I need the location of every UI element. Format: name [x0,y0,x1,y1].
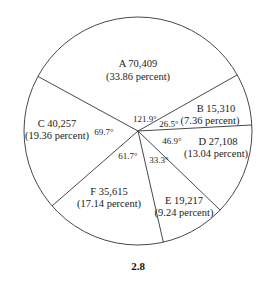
slice-angle-d: 46.9° [162,136,182,146]
slice-percent-d: (13.04 percent) [184,148,249,160]
slice-percent-c: (19.36 percent) [25,130,90,142]
pie-chart: A 70,409(33.86 percent)121.9°B 15,310(7.… [0,0,268,284]
slice-label-c: C 40,257 [38,118,77,129]
slice-percent-e: (9.24 percent) [155,207,214,219]
slice-label-b: B 15,310 [197,103,236,114]
slice-label-f: F 35,615 [90,186,127,197]
slice-label-d: D 27,108 [198,136,237,147]
slice-percent-f: (17.14 percent) [77,198,142,210]
slice-percent-a: (33.86 percent) [106,71,171,83]
slice-angle-e: 33.3° [149,155,169,165]
slice-angle-c: 69.7° [94,127,114,137]
slice-angle-b: 26.5° [159,119,179,129]
slice-angle-f: 61.7° [118,151,138,161]
slice-percent-b: (7.36 percent) [181,115,240,127]
figure-caption: 2.8 [131,260,145,272]
slice-label-a: A 70,409 [119,58,158,69]
slice-label-e: E 19,217 [165,195,203,206]
